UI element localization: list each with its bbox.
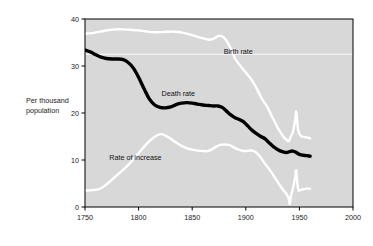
x-tick-label: 1750: [77, 213, 93, 222]
y-axis-title-line2: population: [26, 106, 59, 115]
y-tick-label: 20: [71, 109, 79, 118]
y-tick-label: 40: [71, 15, 79, 24]
x-tick-label: 1850: [184, 213, 200, 222]
plot-area: [85, 19, 353, 207]
x-tick-label: 1800: [131, 213, 147, 222]
y-axis-title-line1: Per thousand: [26, 96, 69, 105]
x-tick-label: 1950: [291, 213, 307, 222]
series-label-birth-rate: Birth rate: [224, 47, 253, 56]
x-tick-label: 1900: [238, 213, 254, 222]
y-tick-label: 0: [75, 203, 79, 212]
y-tick-label: 10: [71, 156, 79, 165]
population-rates-chart: 175018001850190019502000 010203040 Birth…: [0, 0, 373, 246]
series-label-rate-of-increase: Rate of increase: [109, 153, 161, 162]
plot-background: [85, 19, 353, 207]
y-tick-label: 30: [71, 62, 79, 71]
series-label-death-rate: Death rate: [161, 89, 195, 98]
x-tick-label: 2000: [345, 213, 361, 222]
